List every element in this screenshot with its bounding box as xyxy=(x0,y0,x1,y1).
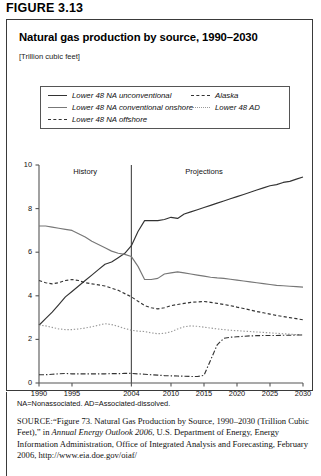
x-axis-tick-label: 2004 xyxy=(114,389,148,398)
abbreviation-note: NA=Nonassociated. AD=Associated-dissolve… xyxy=(17,399,307,408)
chart-svg xyxy=(7,20,314,392)
figure-page: FIGURE 3.13 Natural gas production by so… xyxy=(0,0,321,476)
legend-swatch-dotted-icon xyxy=(191,104,210,111)
figure-number: FIGURE 3.13 xyxy=(6,1,83,15)
projections-annotation: Projections xyxy=(174,167,234,176)
series-line xyxy=(39,335,303,376)
legend-item-conventional-onshore: Lower 48 NA conventional onshore xyxy=(48,103,193,112)
y-axis-tick-label: 8 xyxy=(18,204,32,213)
x-axis-tick-label: 2015 xyxy=(187,389,221,398)
source-publication-title: Annual Energy Outlook 2006 xyxy=(52,427,153,437)
legend-item-unconventional: Lower 48 NA unconventional xyxy=(48,91,171,100)
x-axis-tick-label: 2030 xyxy=(286,389,320,398)
chart-plot-area: 024681019901995200420102015202020252030 xyxy=(7,20,314,392)
legend-swatch-solid-icon xyxy=(48,92,67,99)
history-annotation: History xyxy=(55,167,115,176)
legend-label: Lower 48 NA unconventional xyxy=(72,91,171,100)
chart-title: Natural gas production by source, 1990–2… xyxy=(19,31,258,43)
series-line xyxy=(39,324,303,335)
y-axis-tick-label: 10 xyxy=(18,160,32,169)
source-note: SOURCE:“Figure 73. Natural Gas Productio… xyxy=(17,416,309,462)
legend-label: Lower 48 NA conventional onshore xyxy=(72,103,193,112)
y-axis-tick-label: 0 xyxy=(18,378,32,387)
x-axis-tick-label: 2010 xyxy=(154,389,188,398)
series-line xyxy=(39,177,303,325)
y-axis-tick-label: 4 xyxy=(18,291,32,300)
chart-legend: Lower 48 NA unconventional Lower 48 NA c… xyxy=(40,86,290,129)
left-rule xyxy=(6,392,7,476)
legend-label: Lower 48 AD xyxy=(215,103,260,112)
legend-item-lower48-ad: Lower 48 AD xyxy=(191,103,260,112)
y-axis-tick-label: 6 xyxy=(18,247,32,256)
x-axis-tick-label: 1995 xyxy=(55,389,89,398)
legend-swatch-dashed-icon xyxy=(48,116,67,123)
source-label: SOURCE: xyxy=(17,417,53,426)
legend-item-alaska: Alaska xyxy=(191,91,238,100)
x-axis-tick-label: 1990 xyxy=(22,389,56,398)
series-line xyxy=(39,279,303,319)
x-axis-tick-label: 2020 xyxy=(220,389,254,398)
legend-swatch-dashdot-icon xyxy=(191,92,210,99)
legend-item-offshore: Lower 48 NA offshore xyxy=(48,115,147,124)
x-axis-tick-label: 2025 xyxy=(253,389,287,398)
y-axis-tick-label: 2 xyxy=(18,334,32,343)
chart-units-label: [Trillion cubic feet] xyxy=(19,52,80,61)
legend-swatch-solid-gray-icon xyxy=(48,104,67,111)
legend-label: Alaska xyxy=(215,91,238,100)
legend-label: Lower 48 NA offshore xyxy=(72,115,147,124)
figure-card: Natural gas production by source, 1990–2… xyxy=(6,19,313,391)
series-line xyxy=(39,226,303,287)
